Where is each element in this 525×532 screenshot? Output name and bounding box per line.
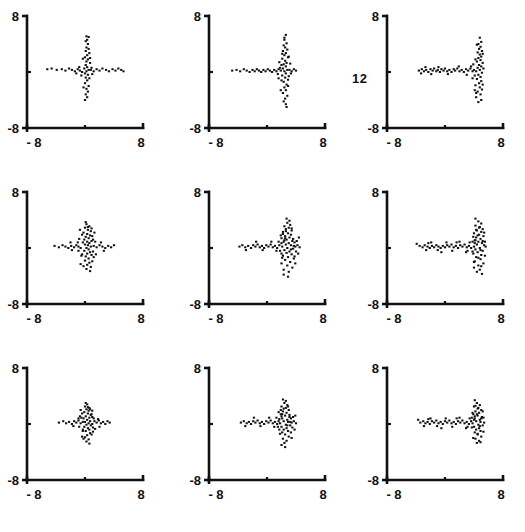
data-point (89, 270, 91, 272)
data-point (473, 261, 475, 263)
data-point (68, 421, 70, 423)
y-axis-max-label: 8 (12, 185, 19, 200)
data-point (87, 58, 89, 60)
data-point (293, 245, 295, 247)
data-point (84, 56, 86, 58)
data-point (259, 425, 261, 427)
y-axis-max-label: 8 (194, 9, 201, 24)
data-point (285, 62, 287, 64)
data-point (93, 245, 95, 247)
data-point (283, 402, 285, 404)
y-axis-min-label: -8 (367, 473, 379, 488)
data-point (283, 39, 285, 41)
data-point (440, 427, 442, 429)
data-point (288, 75, 290, 77)
data-point (478, 64, 480, 66)
data-point (292, 416, 294, 418)
x-axis-min-label: - 8 (26, 135, 41, 150)
data-point (458, 65, 460, 67)
data-point (88, 48, 90, 50)
data-point (475, 96, 477, 98)
data-point (454, 70, 456, 72)
data-point (470, 65, 472, 67)
data-point (424, 422, 426, 424)
data-point (291, 253, 293, 255)
data-point (427, 242, 429, 244)
data-point (280, 79, 282, 81)
data-point (482, 62, 484, 64)
data-point (419, 422, 421, 424)
data-point (88, 36, 90, 38)
data-point (85, 408, 87, 410)
data-point (284, 47, 286, 49)
data-point (451, 426, 453, 428)
data-point (432, 70, 434, 72)
x-axis-min-label: - 8 (208, 135, 223, 150)
data-point (274, 245, 276, 247)
data-point (284, 77, 286, 79)
data-point (289, 424, 291, 426)
y-axis-min-label: -8 (7, 121, 19, 136)
data-point (252, 244, 254, 246)
data-point (285, 252, 287, 254)
data-point (276, 247, 278, 249)
x-axis-max-label: 8 (319, 135, 326, 150)
data-point (279, 422, 281, 424)
data-point (437, 66, 439, 68)
data-point (84, 72, 86, 74)
data-point (440, 251, 442, 253)
data-point (235, 69, 237, 71)
data-point (479, 421, 481, 423)
data-point (446, 422, 448, 424)
data-point (64, 246, 66, 248)
data-point (474, 58, 476, 60)
data-point (448, 69, 450, 71)
data-point (285, 89, 287, 91)
data-point (280, 234, 282, 236)
data-point (283, 81, 285, 83)
data-point (254, 246, 256, 248)
data-point (466, 74, 468, 76)
data-point (280, 415, 282, 417)
data-point (431, 420, 433, 422)
data-point (61, 244, 63, 246)
data-point (283, 70, 285, 72)
y-axis-max-label: 8 (372, 361, 379, 376)
data-point (444, 420, 446, 422)
data-point (283, 54, 285, 56)
data-point (474, 218, 476, 220)
data-point (293, 241, 295, 243)
data-point (231, 70, 233, 72)
data-point (81, 234, 83, 236)
data-point (437, 246, 439, 248)
data-point (283, 249, 285, 251)
data-point (295, 422, 297, 424)
data-point (471, 427, 473, 429)
data-point (90, 67, 92, 69)
data-point (120, 69, 122, 71)
data-point (276, 423, 278, 425)
data-point (87, 74, 89, 76)
data-point (92, 251, 94, 253)
data-point (421, 68, 423, 70)
data-point (280, 426, 282, 428)
data-point (89, 234, 91, 236)
data-point (85, 47, 87, 49)
data-point (480, 231, 482, 233)
data-point (85, 236, 87, 238)
data-point (283, 37, 285, 39)
data-point (82, 58, 84, 60)
y-axis-min-label: -8 (367, 297, 379, 312)
data-point (444, 246, 446, 248)
data-point (91, 260, 93, 262)
scatter-panel-2: 8-8- 88 (182, 0, 357, 177)
data-point (71, 69, 73, 71)
data-point (85, 61, 87, 63)
data-point (245, 249, 247, 251)
data-point (291, 267, 293, 269)
data-point (262, 69, 264, 71)
data-point (283, 100, 285, 102)
data-point (287, 421, 289, 423)
data-point (423, 425, 425, 427)
data-point (479, 69, 481, 71)
